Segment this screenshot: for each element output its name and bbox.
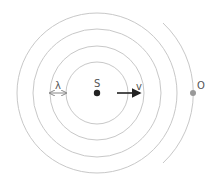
outer-wavefront-arc xyxy=(163,23,193,163)
doppler-diagram: λ S v O xyxy=(0,0,214,184)
source-dot xyxy=(94,90,100,96)
observer-dot xyxy=(190,90,196,96)
wavelength-label: λ xyxy=(55,80,61,91)
velocity-label: v xyxy=(136,81,142,92)
source-label: S xyxy=(94,78,100,89)
observer-label: O xyxy=(197,80,205,91)
